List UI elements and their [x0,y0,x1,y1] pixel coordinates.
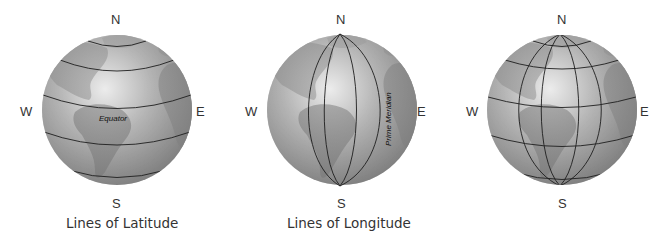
east-label: E [640,104,649,119]
north-label: N [557,12,566,27]
globe-longitude: Prime Meridian [266,34,420,186]
equator-label: Equator [99,114,127,123]
caption-longitude: Lines of Longitude [287,215,411,231]
globe-grid [486,34,640,186]
east-label: E [417,104,426,119]
west-label: W [466,104,478,119]
south-label: S [112,196,121,211]
globe-latitude: Equator [41,35,195,185]
east-label: E [196,104,205,119]
caption-latitude: Lines of Latitude [66,215,178,231]
north-label: N [111,12,120,27]
south-label: S [337,196,346,211]
prime-meridian-label: Prime Meridian [384,92,393,146]
north-label: N [336,12,345,27]
south-label: S [558,196,567,211]
west-label: W [20,104,32,119]
west-label: W [245,104,257,119]
